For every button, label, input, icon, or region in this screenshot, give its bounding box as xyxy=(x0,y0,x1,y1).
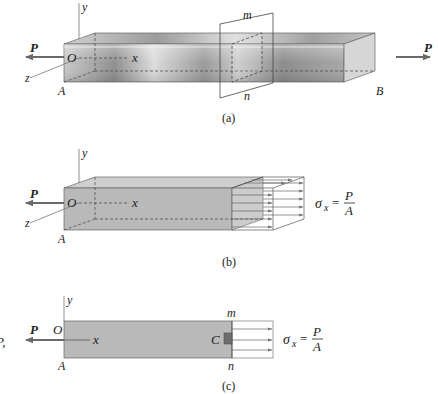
formula-sigma: σ xyxy=(283,332,291,347)
formula-numerator: P xyxy=(312,324,321,339)
label-O: O xyxy=(53,322,63,337)
label-z: z xyxy=(24,71,30,85)
label-m: m xyxy=(243,8,252,22)
caption-c: (c) xyxy=(222,379,235,393)
formula-subscript: x xyxy=(291,338,297,349)
formula-denominator: A xyxy=(312,339,321,354)
formula-denominator: A xyxy=(344,203,353,218)
label-A: A xyxy=(57,359,66,373)
label-z: z xyxy=(24,216,30,230)
formula-equals: = xyxy=(300,331,307,346)
panel-c: y O x A P P, m n C σ x = P A (c) xyxy=(0,293,323,393)
panel-b: y O x z A P σ x = P A (b) xyxy=(24,146,355,269)
caption-a: (a) xyxy=(222,111,235,125)
label-x: x xyxy=(131,195,138,210)
label-A: A xyxy=(57,84,66,98)
label-A: A xyxy=(57,232,66,246)
bar-top-face xyxy=(64,177,263,188)
label-m: m xyxy=(227,306,236,320)
label-B: B xyxy=(376,84,384,98)
label-edge-fragment: P, xyxy=(0,334,6,349)
panel-a: y O x z A B P P m n (a) xyxy=(24,0,433,125)
stress-region xyxy=(232,321,273,358)
bar-side-view xyxy=(64,321,232,358)
label-y: y xyxy=(81,146,88,160)
bar-front-face xyxy=(64,188,232,230)
label-y: y xyxy=(66,293,73,307)
label-x: x xyxy=(92,332,99,347)
formula-subscript: x xyxy=(323,202,329,213)
label-C: C xyxy=(211,332,220,347)
bar-top-face xyxy=(64,33,375,44)
stress-formula: σ x = P A xyxy=(315,188,355,218)
label-O: O xyxy=(67,50,77,65)
formula-equals: = xyxy=(332,195,339,210)
element-C xyxy=(224,333,232,344)
label-O: O xyxy=(67,195,77,210)
label-y: y xyxy=(81,0,88,14)
formula-numerator: P xyxy=(344,188,353,203)
label-x: x xyxy=(131,50,138,65)
label-P-right: P xyxy=(424,40,433,55)
label-P-left: P xyxy=(30,186,39,201)
label-P-left: P xyxy=(30,40,39,55)
stress-formula: σ x = P A xyxy=(283,324,323,354)
label-n: n xyxy=(244,89,250,103)
stress-diagram: y O x z A B P P m n (a) xyxy=(0,0,438,394)
caption-b: (b) xyxy=(222,255,236,269)
label-P-left: P xyxy=(30,322,39,337)
formula-sigma: σ xyxy=(315,196,323,211)
label-n: n xyxy=(228,359,234,373)
